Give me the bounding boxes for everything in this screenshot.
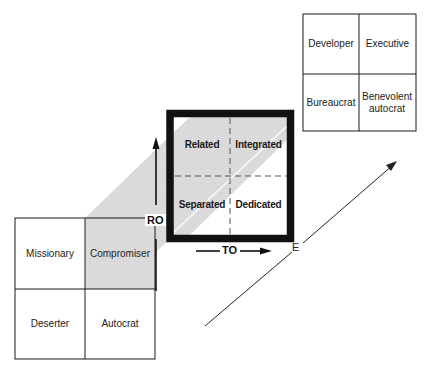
center-cell-related: Related bbox=[174, 130, 230, 160]
right-cell-executive: Executive bbox=[359, 14, 416, 74]
left-cell-deserter: Deserter bbox=[15, 289, 85, 359]
left-cell-missionary: Missionary bbox=[15, 218, 85, 289]
left-cell-autocrat: Autocrat bbox=[85, 289, 155, 359]
right-cell-benevolent-autocrat: Benevolent autocrat bbox=[362, 74, 412, 131]
center-cell-separated: Separated bbox=[174, 190, 230, 220]
to-axis-label: TO bbox=[220, 244, 239, 256]
left-cell-compromiser: Compromiser bbox=[85, 218, 155, 289]
ro-axis-label: RO bbox=[145, 214, 166, 226]
right-cell-developer: Developer bbox=[303, 14, 359, 74]
e-axis-label: E bbox=[292, 241, 299, 253]
center-cell-integrated: Integrated bbox=[230, 130, 287, 160]
center-cell-dedicated: Dedicated bbox=[230, 190, 287, 220]
right-cell-bureaucrat: Bureaucrat bbox=[303, 74, 359, 131]
